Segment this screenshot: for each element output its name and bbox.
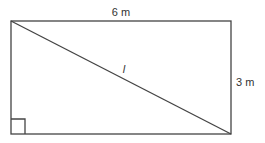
- right-angle-marker: [11, 119, 25, 134]
- top-side-label: 6 m: [112, 6, 130, 18]
- rectangle-diagram: 6 m 3 m l: [0, 0, 265, 143]
- right-side-label: 3 m: [236, 76, 254, 88]
- diagonal-line: [11, 21, 231, 134]
- diagonal-label: l: [123, 63, 126, 75]
